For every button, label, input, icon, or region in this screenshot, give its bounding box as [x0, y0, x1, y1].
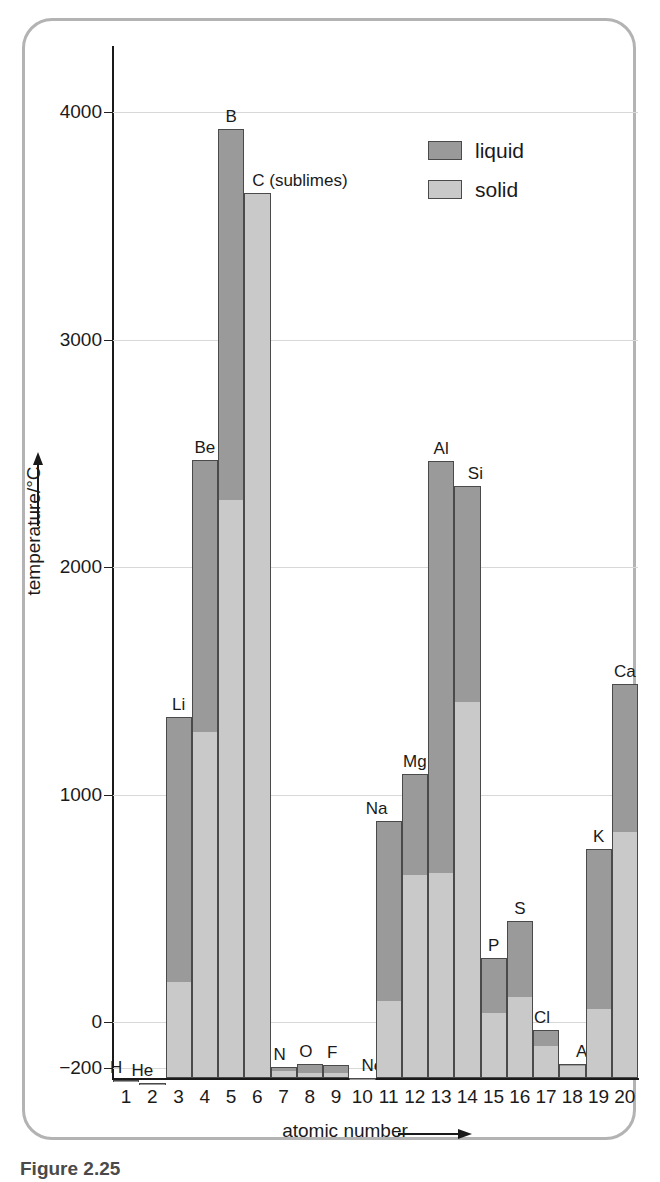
y-axis-tick	[104, 1022, 113, 1023]
bar-segment-liquid	[455, 487, 479, 702]
bar-label-al: Al	[398, 440, 484, 457]
x-axis-arrow-icon	[398, 1128, 472, 1140]
y-axis-tick-label: 0	[40, 1012, 102, 1031]
bar-o	[297, 1064, 323, 1078]
figure-caption: Figure 2.25	[20, 1158, 640, 1180]
bar-segment-liquid	[613, 685, 637, 832]
bar-segment-liquid	[482, 959, 506, 1013]
bar-ca	[612, 684, 638, 1078]
legend-label-liquid: liquid	[475, 140, 524, 161]
bar-ar	[559, 1064, 585, 1078]
bar-segment-liquid	[429, 462, 453, 873]
bar-segment-liquid	[193, 461, 217, 732]
legend-item-liquid: liquid	[428, 140, 598, 161]
bar-segment-solid	[219, 500, 243, 1077]
y-axis-arrow-icon	[32, 452, 44, 526]
bar-segment-liquid	[377, 822, 401, 1001]
bar-segment-liquid	[167, 718, 191, 982]
legend-item-solid: solid	[428, 179, 598, 200]
y-axis-tick-label: 1000	[40, 785, 102, 804]
bar-label-si: Si	[432, 465, 518, 482]
bar-segment-liquid	[298, 1065, 322, 1073]
bar-segment-liquid	[587, 850, 611, 1009]
bar-segment-solid	[193, 732, 217, 1077]
bar-segment-solid	[245, 194, 269, 1077]
bar-segment-solid	[403, 875, 427, 1077]
legend-label-solid: solid	[475, 179, 518, 200]
bar-b	[218, 129, 244, 1078]
bar-ne	[349, 1078, 375, 1080]
bar-k	[586, 849, 612, 1078]
bar-label-s: S	[477, 900, 563, 917]
bar-n	[271, 1067, 297, 1078]
bar-al	[428, 461, 454, 1078]
bar-segment-liquid	[508, 922, 532, 998]
legend-swatch-solid	[428, 180, 462, 199]
bar-c	[244, 193, 270, 1078]
bar-be	[192, 460, 218, 1078]
bar-si	[454, 486, 480, 1078]
y-axis-tick	[104, 112, 113, 113]
bar-segment-solid	[167, 982, 191, 1077]
chart-plot-area: 40003000200010000−200 HHeLiBeBC (sublime…	[0, 0, 660, 1182]
y-axis-tick-label: 2000	[40, 557, 102, 576]
bar-segment-solid	[377, 1001, 401, 1077]
bar-segment-liquid	[219, 130, 243, 500]
bar-segment-solid	[587, 1009, 611, 1077]
bar-mg	[402, 774, 428, 1078]
bar-segment-liquid	[350, 1079, 374, 1080]
bar-label-ca: Ca	[582, 663, 660, 680]
chart-legend: liquid solid	[428, 140, 598, 218]
bar-segment-solid	[298, 1073, 322, 1077]
y-axis-tick	[104, 567, 113, 568]
x-axis-tick-label: 20	[606, 1086, 644, 1108]
bar-label-c: C (sublimes)	[252, 172, 338, 189]
bar-segment-solid	[613, 832, 637, 1077]
bar-segment-solid	[272, 1071, 296, 1077]
x-axis-line	[112, 1078, 639, 1080]
bar-label-cl: Cl	[499, 1009, 585, 1026]
bar-segment-liquid	[403, 775, 427, 875]
y-axis-tick-label: 4000	[40, 102, 102, 121]
y-axis-tick	[104, 795, 113, 796]
y-axis-tick	[104, 340, 113, 341]
legend-swatch-liquid	[428, 141, 462, 160]
bar-segment-liquid	[140, 1084, 164, 1085]
bar-segment-solid	[560, 1066, 584, 1077]
y-axis-tick-label: 3000	[40, 330, 102, 349]
bar-segment-solid	[455, 702, 479, 1077]
y-axis-line	[112, 46, 114, 1078]
bar-na	[376, 821, 402, 1078]
bar-segment-solid	[429, 873, 453, 1077]
bar-li	[166, 717, 192, 1078]
bar-he	[139, 1083, 165, 1085]
bar-label-b: B	[188, 108, 274, 125]
bar-s	[507, 921, 533, 1078]
bar-segment-liquid	[114, 1081, 138, 1082]
gridline	[113, 340, 638, 341]
